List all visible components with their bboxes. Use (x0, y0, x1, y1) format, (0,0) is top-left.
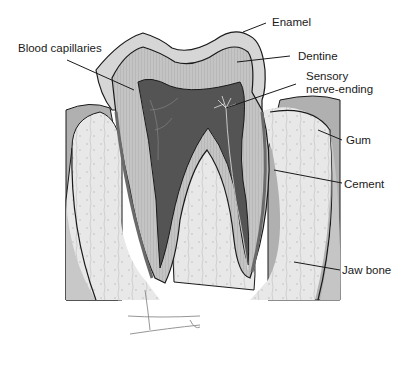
label-sensory-nerve-line1: Sensory (306, 70, 348, 83)
label-jaw-bone: Jaw bone (342, 264, 391, 277)
label-gum: Gum (346, 134, 371, 147)
label-cement: Cement (344, 178, 384, 191)
label-sensory-nerve-line2: nerve-ending (306, 83, 373, 96)
label-blood-capillaries: Blood capillaries (18, 42, 102, 55)
tooth-diagram: Blood capillaries Enamel Dentine Sensory… (0, 0, 412, 373)
label-dentine: Dentine (298, 50, 338, 63)
label-enamel: Enamel (272, 16, 311, 29)
